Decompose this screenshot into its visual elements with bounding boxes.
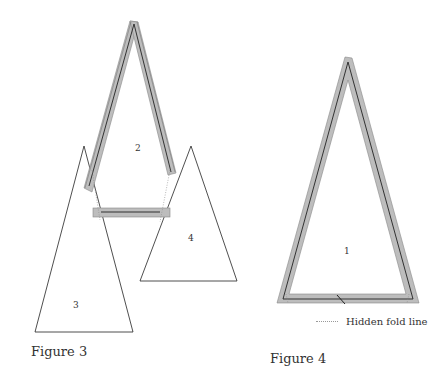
base-strip bbox=[93, 208, 170, 217]
dotted-line-swatch-icon bbox=[316, 321, 338, 322]
triangle-1 bbox=[277, 57, 419, 304]
figure-4-caption: Figure 4 bbox=[270, 351, 326, 366]
piece-label-3: 3 bbox=[73, 300, 79, 310]
triangle-3 bbox=[35, 146, 133, 332]
figure-3-caption: Figure 3 bbox=[31, 344, 87, 359]
legend: Hidden fold line bbox=[316, 316, 428, 327]
piece-label-2: 2 bbox=[135, 143, 141, 153]
legend-label: Hidden fold line bbox=[346, 316, 428, 327]
piece-label-4: 4 bbox=[188, 233, 194, 243]
piece-label-1: 1 bbox=[344, 246, 350, 256]
triangle-2-strips bbox=[84, 21, 176, 192]
